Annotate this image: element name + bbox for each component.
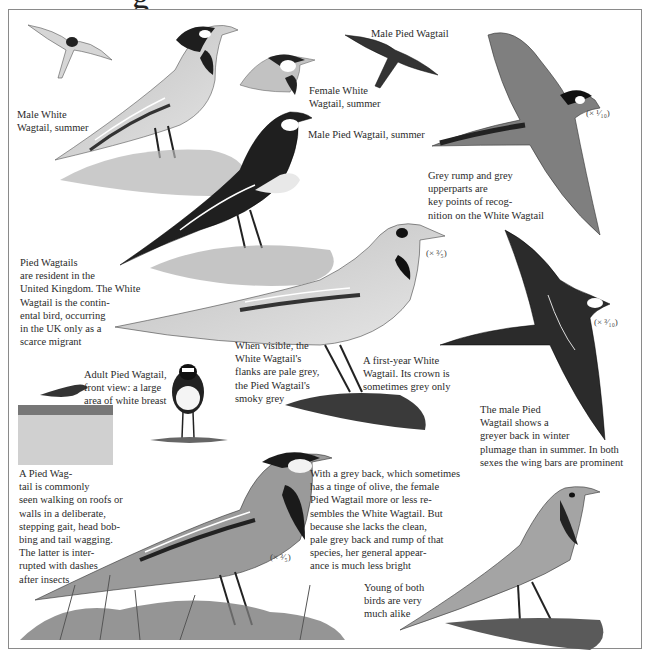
female-white-wagtail-head-icon bbox=[240, 54, 315, 95]
caption-female-white-wagtail-summer: Female White Wagtail, summer bbox=[309, 84, 380, 110]
caption-flanks: When visible, the White Wagtail's flanks… bbox=[235, 339, 319, 405]
scale-female-pied: (× ³⁄₅) bbox=[270, 552, 291, 562]
scale-flight-white: (× ¹⁄₁₀) bbox=[586, 108, 610, 118]
caption-male-pied-wagtail-summer: Male Pied Wagtail, summer bbox=[308, 128, 425, 141]
caption-front-view: Adult Pied Wagtail, front view: a large … bbox=[84, 368, 167, 408]
flying-white-wagtail-small-icon bbox=[28, 25, 112, 78]
caption-young: Young of both birds are very much alike bbox=[364, 581, 424, 621]
scale-first-year: (× ³⁄₅) bbox=[426, 248, 447, 258]
caption-male-white-wagtail-summer: Male White Wagtail, summer bbox=[17, 108, 88, 134]
caption-resident: Pied Wagtails are resident in the United… bbox=[20, 256, 140, 348]
caption-male-pied-wagtail-flight: Male Pied Wagtail bbox=[371, 27, 449, 40]
caption-grey-rump: Grey rump and grey upperparts are key po… bbox=[428, 169, 544, 222]
male-pied-wagtail-summer-icon bbox=[120, 112, 334, 286]
caption-roofs: A Pied Wag- tail is commonly seen walkin… bbox=[19, 467, 123, 586]
caption-male-pied-winter: The male Pied Wagtail shows a greyer bac… bbox=[480, 403, 623, 469]
scale-flight-pied: (× ³⁄₁₀) bbox=[594, 317, 618, 327]
caption-female-pied: With a grey back, which sometimes has a … bbox=[310, 467, 460, 573]
caption-first-year: A first-year White Wagtail. Its crown is… bbox=[363, 354, 451, 394]
flying-male-pied-wagtail-icon bbox=[345, 35, 438, 88]
